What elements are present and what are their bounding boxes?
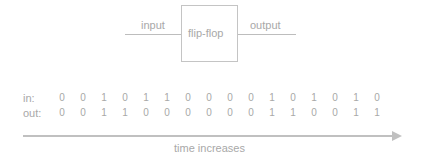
in-value-cell: 0 <box>225 92 235 103</box>
input-wire <box>125 34 181 35</box>
in-value-cell: 0 <box>288 92 298 103</box>
output-wire <box>238 34 296 35</box>
out-value-cell: 0 <box>57 107 67 118</box>
in-value-cell: 0 <box>330 92 340 103</box>
out-value-cell: 1 <box>288 107 298 118</box>
flip-flop-label: flip-flop <box>188 27 223 39</box>
in-value-cell: 1 <box>99 92 109 103</box>
out-value-cell: 0 <box>141 107 151 118</box>
out-value-cell: 1 <box>267 107 277 118</box>
in-value-cell: 1 <box>267 92 277 103</box>
out-value-cell: 0 <box>204 107 214 118</box>
time-axis-arrowhead-icon <box>392 131 402 141</box>
out-value-cell: 1 <box>99 107 109 118</box>
in-value-cell: 0 <box>57 92 67 103</box>
out-value-cell: 0 <box>183 107 193 118</box>
out-value-cell: 0 <box>309 107 319 118</box>
out-value-cell: 0 <box>162 107 172 118</box>
out-value-cell: 0 <box>78 107 88 118</box>
in-value-cell: 1 <box>141 92 151 103</box>
output-label: output <box>250 19 281 31</box>
in-value-cell: 0 <box>372 92 382 103</box>
time-axis-label: time increases <box>174 142 245 154</box>
out-value-cell: 1 <box>351 107 361 118</box>
out-value-cell: 0 <box>225 107 235 118</box>
in-value-cell: 1 <box>351 92 361 103</box>
time-axis-line <box>23 135 398 137</box>
in-value-cell: 0 <box>246 92 256 103</box>
in-value-cell: 0 <box>183 92 193 103</box>
out-value-cell: 1 <box>372 107 382 118</box>
in-value-cell: 1 <box>162 92 172 103</box>
out-value-cell: 1 <box>120 107 130 118</box>
in-value-cell: 0 <box>120 92 130 103</box>
in-value-cell: 0 <box>78 92 88 103</box>
input-label: input <box>141 19 165 31</box>
in-value-cell: 0 <box>204 92 214 103</box>
row-in-label: in: <box>23 92 35 104</box>
out-value-cell: 0 <box>330 107 340 118</box>
out-value-cell: 0 <box>246 107 256 118</box>
in-value-cell: 1 <box>309 92 319 103</box>
row-out-label: out: <box>23 107 41 119</box>
